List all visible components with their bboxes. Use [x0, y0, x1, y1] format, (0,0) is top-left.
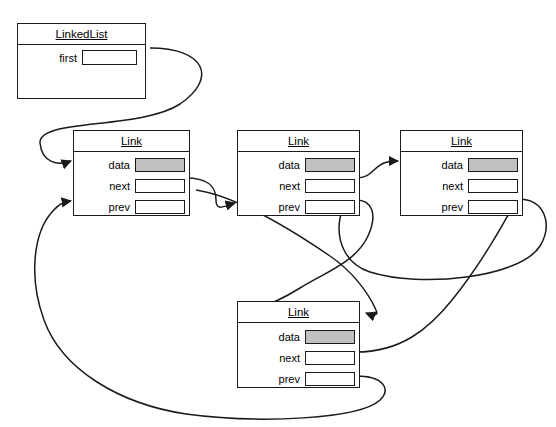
- link-2-next-slot[interactable]: [305, 179, 355, 193]
- link-1-field-next: next: [74, 179, 185, 193]
- link-box-3[interactable]: Link data next prev: [400, 130, 523, 216]
- field-label-next: next: [279, 180, 300, 192]
- link-3-body: data next prev: [401, 152, 522, 215]
- link-3-next-slot[interactable]: [468, 179, 518, 193]
- link-box-1[interactable]: Link data next prev: [73, 130, 190, 216]
- edge-link2-next-to-link3-data: [356, 161, 398, 178]
- link-4-next-slot[interactable]: [305, 351, 355, 365]
- field-label-data: data: [442, 159, 463, 171]
- cut-off-caption: [120, 0, 320, 11]
- field-label-next: next: [109, 180, 130, 192]
- diagram-canvas: LinkedList first Link data next prev: [0, 0, 556, 427]
- link-4-prev-slot[interactable]: [305, 372, 355, 386]
- link-3-prev-slot[interactable]: [468, 200, 518, 214]
- link-4-body: data next prev: [238, 323, 359, 387]
- edge-link1-next-to-link2-prev: [186, 178, 235, 207]
- field-label-data: data: [109, 159, 130, 171]
- link-box-4[interactable]: Link data next prev: [237, 301, 360, 388]
- link-2-data-slot[interactable]: [305, 158, 355, 172]
- field-label-prev: prev: [279, 373, 300, 385]
- link-1-prev-slot[interactable]: [135, 200, 185, 214]
- link-1-title: Link: [74, 131, 189, 152]
- field-label-next: next: [279, 352, 300, 364]
- link-2-field-prev: prev: [238, 200, 355, 214]
- link-4-data-slot[interactable]: [305, 330, 355, 344]
- link-4-field-data: data: [238, 330, 355, 344]
- link-1-field-prev: prev: [74, 200, 185, 214]
- field-label-data: data: [279, 159, 300, 171]
- link-2-prev-slot[interactable]: [305, 200, 355, 214]
- link-2-body: data next prev: [238, 152, 359, 215]
- link-4-title: Link: [238, 302, 359, 323]
- link-2-field-next: next: [238, 179, 355, 193]
- link-box-2[interactable]: Link data next prev: [237, 130, 360, 216]
- link-1-next-slot[interactable]: [135, 179, 185, 193]
- link-3-title-text: Link: [451, 135, 472, 147]
- field-label-prev: prev: [279, 201, 300, 213]
- field-label-prev: prev: [109, 201, 130, 213]
- link-2-field-data: data: [238, 158, 355, 172]
- link-1-field-data: data: [74, 158, 185, 172]
- link-2-title: Link: [238, 131, 359, 152]
- field-label-next: next: [442, 180, 463, 192]
- link-1-body: data next prev: [74, 152, 189, 215]
- link-1-data-slot[interactable]: [135, 158, 185, 172]
- field-label-data: data: [279, 331, 300, 343]
- link-4-field-next: next: [238, 351, 355, 365]
- field-label-first: first: [59, 52, 77, 64]
- first-pointer-slot[interactable]: [82, 50, 137, 65]
- linkedlist-body: first: [18, 45, 145, 98]
- link-3-field-next: next: [401, 179, 518, 193]
- link-3-title: Link: [401, 131, 522, 152]
- linkedlist-title-text: LinkedList: [56, 28, 108, 40]
- link-3-data-slot[interactable]: [468, 158, 518, 172]
- link-3-field-data: data: [401, 158, 518, 172]
- linkedlist-title: LinkedList: [18, 24, 145, 45]
- linkedlist-field-first: first: [18, 50, 137, 65]
- link-4-field-prev: prev: [238, 372, 355, 386]
- link-1-title-text: Link: [121, 135, 142, 147]
- linkedlist-box[interactable]: LinkedList first: [17, 23, 146, 99]
- field-label-prev: prev: [442, 201, 463, 213]
- link-2-title-text: Link: [288, 135, 309, 147]
- link-3-field-prev: prev: [401, 200, 518, 214]
- link-4-title-text: Link: [288, 306, 309, 318]
- edge-link2-prev-to-link4: [250, 200, 373, 310]
- edge-link4-next-to-link3-prev: [356, 199, 522, 352]
